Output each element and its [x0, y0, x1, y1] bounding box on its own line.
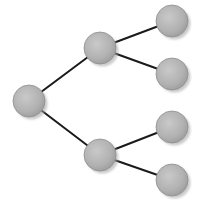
node-lower-mid — [84, 139, 119, 174]
nodes-group — [13, 5, 191, 199]
node-circle — [156, 111, 188, 143]
node-circle — [84, 32, 116, 64]
node-leaf-3 — [156, 111, 191, 146]
node-circle — [84, 139, 116, 171]
node-circle — [13, 85, 45, 117]
node-circle — [156, 5, 188, 37]
node-leaf-2 — [156, 58, 191, 93]
node-circle — [156, 164, 188, 196]
node-upper-mid — [84, 32, 119, 67]
tree-diagram — [0, 0, 202, 207]
node-leaf-4 — [156, 164, 191, 199]
node-leaf-1 — [156, 5, 191, 40]
node-circle — [156, 58, 188, 90]
